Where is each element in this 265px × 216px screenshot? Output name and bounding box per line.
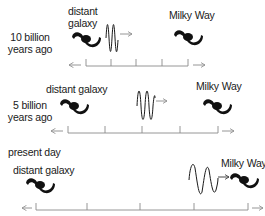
panel2-milky-way-icon: [203, 99, 232, 114]
panel3-milky-way-icon: [230, 173, 259, 188]
panel1-distance-axis: [69, 59, 205, 66]
panel2-distance-axis: [51, 126, 234, 133]
panel3-distance-axis: [22, 203, 263, 210]
panel1-milky-way-icon: [174, 30, 203, 45]
panel3-light-wave-icon: [189, 164, 218, 193]
panel2-distant-galaxy-icon: [60, 99, 89, 114]
diagram-graphics: [0, 0, 265, 216]
panel1-distant-galaxy-icon: [72, 32, 101, 47]
panel2-light-wave-icon: [137, 91, 155, 120]
panel1-light-wave-icon: [106, 25, 118, 52]
panel3-distant-galaxy-icon: [26, 178, 55, 193]
